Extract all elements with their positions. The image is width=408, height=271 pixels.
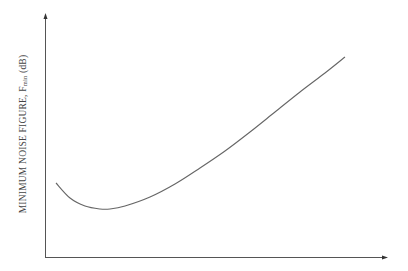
noise-figure-curve [56,57,345,209]
y-axis-label: MINIMUM NOISE FIGURE, Fmin (dB) [18,19,28,249]
y-axis-arrow-icon [44,13,48,19]
chart-canvas [0,0,408,271]
x-axis-arrow-icon [382,256,388,260]
